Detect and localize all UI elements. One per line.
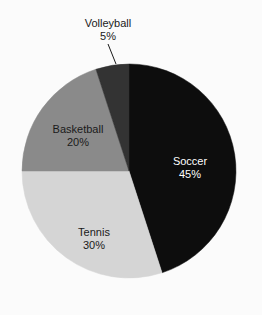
pie-label-name-tennis: Tennis	[78, 226, 110, 238]
pie-label-percent-tennis: 30%	[83, 239, 105, 251]
pie-label-name-soccer: Soccer	[173, 155, 208, 167]
pie-chart-canvas: Soccer45%Tennis30%Basketball20%Volleybal…	[0, 0, 262, 315]
pie-label-name-basketball: Basketball	[53, 123, 104, 135]
pie-chart-figure: Soccer45%Tennis30%Basketball20%Volleybal…	[0, 0, 262, 315]
pie-label-percent-basketball: 20%	[67, 136, 89, 148]
leader-line-volleyball	[108, 44, 116, 64]
pie-label-percent-soccer: 45%	[179, 168, 201, 180]
pie-label-volleyball: Volleyball5%	[85, 17, 131, 42]
pie-slice-group	[22, 64, 236, 278]
leader-line-group	[108, 44, 116, 64]
pie-label-percent-volleyball: 5%	[100, 30, 116, 42]
pie-label-name-volleyball: Volleyball	[85, 17, 131, 29]
